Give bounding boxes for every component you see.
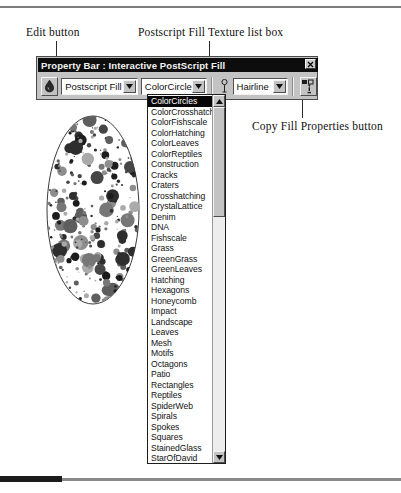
close-icon xyxy=(307,61,314,68)
dropdown-item[interactable]: ColorLeaves xyxy=(148,138,212,149)
scrollbar-thumb[interactable] xyxy=(213,107,225,217)
dropdown-item[interactable]: CrystalLattice xyxy=(148,201,212,212)
dropdown-item[interactable]: Construction xyxy=(148,159,212,170)
dropdown-item[interactable]: ColorCrosshatch xyxy=(148,107,212,118)
dropdown-item[interactable]: Hatching xyxy=(148,275,212,286)
chevron-down-icon xyxy=(276,84,283,89)
outline-pen-icon-wrap xyxy=(219,78,230,95)
dropdown-item[interactable]: Leaves xyxy=(148,327,212,338)
dropdown-item[interactable]: Cracks xyxy=(148,170,212,181)
dropdown-item[interactable]: ColorReptiles xyxy=(148,149,212,160)
dropdown-item[interactable]: ColorFishscale xyxy=(148,117,212,128)
texture-dropdown-list[interactable]: ColorCirclesColorCrosshatchColorFishscal… xyxy=(147,94,226,464)
callout-edit-leader xyxy=(56,41,57,56)
dropdown-item[interactable]: Motifs xyxy=(148,348,212,359)
dropdown-item[interactable]: Octagons xyxy=(148,359,212,370)
dropdown-item[interactable]: Fishscale xyxy=(148,233,212,244)
texture-dropdown-arrow[interactable] xyxy=(192,80,205,93)
copy-fill-properties-button[interactable] xyxy=(300,77,317,96)
colorcircles-fill-ellipse xyxy=(44,112,142,308)
dropdown-item[interactable]: ColorCircles xyxy=(148,96,212,107)
fill-type-combo[interactable]: Postscript Fill xyxy=(61,78,138,95)
dropdown-item[interactable]: Spokes xyxy=(148,422,212,433)
dropdown-item[interactable]: Hexagons xyxy=(148,285,212,296)
pen-nib-icon xyxy=(220,79,229,93)
edit-button[interactable] xyxy=(41,77,58,96)
copy-properties-eyedropper-icon xyxy=(301,79,315,94)
dropdown-item[interactable]: Honeycomb xyxy=(148,296,212,307)
dropdown-item[interactable]: GreenLeaves xyxy=(148,264,212,275)
dropdown-item[interactable]: Landscape xyxy=(148,317,212,328)
outline-width-value: Hairline xyxy=(234,81,269,92)
dropdown-item[interactable]: StainedGlass xyxy=(148,443,212,454)
scrollbar-track[interactable] xyxy=(213,107,225,451)
dropdown-item[interactable]: Stars xyxy=(148,464,212,465)
dropdown-item[interactable]: Spirals xyxy=(148,411,212,422)
callout-edit-button: Edit button xyxy=(26,26,80,38)
close-button[interactable] xyxy=(305,59,316,69)
dropdown-item[interactable]: Rectangles xyxy=(148,380,212,391)
dropdown-item[interactable]: Patio xyxy=(148,369,212,380)
scroll-down-button[interactable] xyxy=(213,451,225,463)
dropdown-item[interactable]: Squares xyxy=(148,432,212,443)
texture-value: ColorCircles xyxy=(142,81,197,92)
callout-copy-button: Copy Fill Properties button xyxy=(252,120,383,132)
texture-combo[interactable]: ColorCircles xyxy=(141,78,207,95)
page-rule-bottom-accent xyxy=(0,476,62,482)
outline-width-dropdown-arrow[interactable] xyxy=(273,80,286,93)
dropdown-item[interactable]: SpiderWeb xyxy=(148,401,212,412)
dropdown-item[interactable]: StarOfDavid xyxy=(148,453,212,464)
chevron-down-icon xyxy=(126,84,133,89)
dropdown-item[interactable]: Crosshatching xyxy=(148,191,212,202)
dropdown-item[interactable]: GreenGrass xyxy=(148,254,212,265)
dropdown-item[interactable]: Reptiles xyxy=(148,390,212,401)
chevron-down-icon xyxy=(195,84,202,89)
dropdown-scrollbar[interactable] xyxy=(212,95,225,463)
droplet-icon xyxy=(43,79,56,93)
fill-type-dropdown-arrow[interactable] xyxy=(123,80,136,93)
outline-width-combo[interactable]: Hairline xyxy=(233,78,288,95)
dropdown-item[interactable]: Denim xyxy=(148,212,212,223)
caret-up-icon xyxy=(216,99,223,104)
dropdown-item-list: ColorCirclesColorCrosshatchColorFishscal… xyxy=(148,95,212,464)
callout-texture-listbox: Postscript Fill Texture list box xyxy=(138,26,283,38)
dropdown-item[interactable]: Impact xyxy=(148,306,212,317)
dropdown-item[interactable]: Grass xyxy=(148,243,212,254)
ellipse-artwork xyxy=(44,112,142,308)
page-rule-top xyxy=(0,6,401,8)
caret-down-icon xyxy=(216,455,223,460)
scroll-up-button[interactable] xyxy=(213,95,225,107)
dropdown-item[interactable]: Craters xyxy=(148,180,212,191)
toolbar-separator xyxy=(211,77,213,96)
titlebar[interactable]: Property Bar : Interactive PostScript Fi… xyxy=(38,58,318,72)
dropdown-item[interactable]: DNA xyxy=(148,222,212,233)
dropdown-item[interactable]: ColorHatching xyxy=(148,128,212,139)
dropdown-item[interactable]: Mesh xyxy=(148,338,212,349)
toolbar-separator-2 xyxy=(292,77,294,96)
fill-type-value: Postscript Fill xyxy=(62,81,121,92)
window-title: Property Bar : Interactive PostScript Fi… xyxy=(38,60,225,71)
dropdown-inner: ColorCirclesColorCrosshatchColorFishscal… xyxy=(148,95,225,463)
